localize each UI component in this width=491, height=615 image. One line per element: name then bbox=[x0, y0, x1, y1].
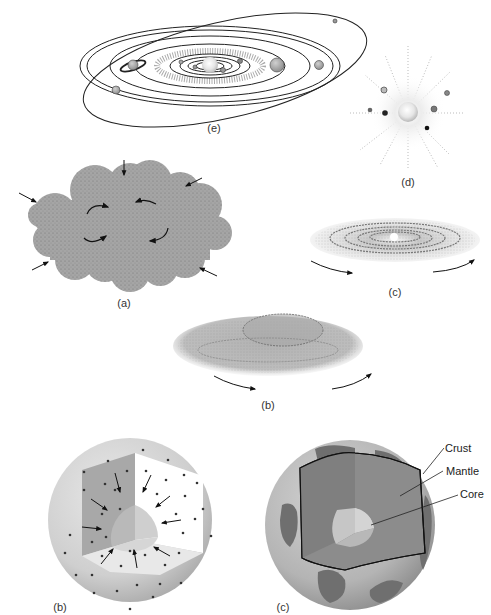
panel-c-lower-label: (c) bbox=[277, 601, 290, 613]
saturn-icon bbox=[119, 58, 146, 74]
panel-d-star bbox=[350, 45, 465, 170]
crust-label: Crust bbox=[445, 442, 471, 454]
panel-e-solar-system bbox=[73, 0, 377, 149]
panel-a-label: (a) bbox=[117, 297, 130, 309]
panel-b-cutaway-sphere bbox=[48, 438, 212, 610]
panel-d-label: (d) bbox=[401, 176, 414, 188]
panel-c-label: (c) bbox=[389, 286, 402, 298]
mantle-label: Mantle bbox=[446, 465, 479, 477]
panel-b-lower-label: (b) bbox=[53, 601, 66, 613]
core-label: Core bbox=[460, 488, 484, 500]
panel-c-earth-cutaway bbox=[265, 440, 458, 610]
sun-icon bbox=[202, 57, 218, 73]
illustration-canvas: (e) (d) bbox=[0, 0, 491, 615]
panel-a-gas-cloud bbox=[19, 160, 232, 292]
panel-b-nebula bbox=[173, 314, 371, 389]
panel-c-disk bbox=[310, 218, 480, 273]
star-icon bbox=[398, 102, 418, 122]
panel-e-label: (e) bbox=[207, 122, 220, 134]
panel-b-label: (b) bbox=[261, 399, 274, 411]
